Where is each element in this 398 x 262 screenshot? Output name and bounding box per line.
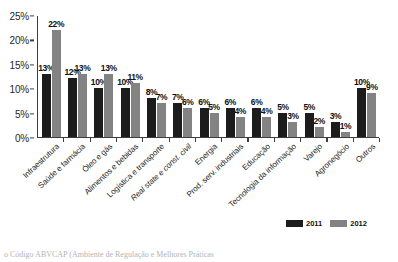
x-axis-category-label: Saúde e farmácia	[37, 142, 88, 190]
chart-legend: 20112012	[286, 219, 367, 228]
bar-2012	[367, 93, 376, 137]
bar-2011	[200, 108, 209, 137]
bar-2012	[78, 74, 87, 137]
bar-group: 10%13%	[94, 16, 113, 137]
bar-2012	[131, 83, 140, 137]
plot-area: 13%22%12%13%10%13%10%11%8%7%7%6%6%5%6%4%…	[37, 16, 379, 138]
x-axis-category-label: Varejo	[302, 142, 324, 164]
legend-label: 2012	[350, 219, 367, 228]
bar-2011	[94, 88, 103, 137]
bar-group: 5%2%	[305, 16, 324, 137]
bar-value-label: 7%	[156, 92, 168, 102]
bar-2012	[52, 30, 61, 137]
bar-value-label: 3%	[287, 111, 299, 121]
bar-group: 12%13%	[68, 16, 87, 137]
y-axis-tick-mark	[30, 64, 34, 65]
bar-2012	[341, 132, 350, 137]
bar-group: 3%1%	[331, 16, 350, 137]
bar-value-label: 5%	[303, 102, 315, 112]
bar-value-label: 1%	[340, 121, 352, 131]
legend-entry[interactable]: 2011	[286, 219, 322, 228]
bar-2011	[226, 108, 235, 137]
bar-value-label: 22%	[48, 19, 64, 29]
clipped-title-text	[0, 0, 398, 4]
bar-2011	[173, 103, 182, 137]
bar-group: 6%5%	[200, 16, 219, 137]
bar-group: 6%4%	[252, 16, 271, 137]
x-axis-category-label: Outros	[354, 142, 377, 165]
bar-value-label: 4%	[261, 106, 273, 116]
y-axis: 0%5%10%15%20%25%	[0, 16, 34, 138]
x-axis-category-labels: InfraestruturaSaúde e farmáciaÓleo e gás…	[0, 138, 398, 218]
bar-group: 8%7%	[147, 16, 166, 137]
y-axis-tick-label: 25%	[10, 11, 29, 22]
bar-2011	[147, 98, 156, 137]
bar-2011	[357, 88, 366, 137]
legend-swatch-icon	[330, 220, 347, 227]
bar-value-label: 11%	[127, 72, 142, 82]
bar-2012	[104, 74, 113, 137]
bar-value-label: 6%	[225, 97, 237, 107]
y-axis-tick-label: 15%	[10, 59, 29, 70]
bar-group: 5%3%	[278, 16, 297, 137]
bar-value-label: 6%	[251, 97, 263, 107]
bar-2012	[262, 117, 271, 137]
legend-label: 2011	[306, 219, 322, 228]
y-axis-tick-label: 20%	[10, 35, 29, 46]
bar-2011	[278, 113, 287, 137]
bar-group: 6%4%	[226, 16, 245, 137]
bar-2011	[331, 122, 340, 137]
y-axis-tick-mark	[30, 89, 34, 90]
bar-2012	[183, 108, 192, 137]
bar-value-label: 9%	[366, 82, 378, 92]
bar-group: 13%22%	[42, 16, 61, 137]
y-axis-tick-label: 10%	[10, 84, 29, 95]
bar-value-label: 2%	[313, 116, 325, 126]
bar-value-label: 13%	[101, 63, 117, 73]
bar-2011	[305, 113, 314, 137]
bar-value-label: 3%	[330, 111, 342, 121]
bar-2011	[252, 108, 261, 137]
bar-2011	[68, 78, 77, 137]
legend-entry[interactable]: 2012	[330, 219, 367, 228]
bar-group: 10%11%	[121, 16, 140, 137]
bar-2012	[288, 122, 297, 137]
bar-2012	[210, 113, 219, 137]
clipped-caption-text: o Código ABVCAP (Ambiente de Regulação e…	[4, 250, 398, 262]
bar-value-label: 13%	[75, 63, 91, 73]
y-axis-tick-mark	[30, 40, 34, 41]
y-axis-tick-label: 5%	[15, 108, 29, 119]
bar-group: 10%9%	[357, 16, 376, 137]
y-axis-tick-mark	[30, 15, 34, 16]
bar-value-label: 5%	[208, 102, 220, 112]
bar-value-label: 5%	[277, 102, 289, 112]
y-axis-tick-mark	[30, 113, 34, 114]
bar-group: 7%6%	[173, 16, 192, 137]
bar-2012	[157, 103, 166, 137]
bar-2012	[236, 117, 245, 137]
bar-value-label: 6%	[182, 97, 194, 107]
bar-2012	[315, 127, 324, 137]
bar-2011	[121, 88, 130, 137]
legend-swatch-icon	[286, 220, 303, 227]
bar-2011	[42, 74, 51, 137]
bar-value-label: 4%	[235, 106, 247, 116]
